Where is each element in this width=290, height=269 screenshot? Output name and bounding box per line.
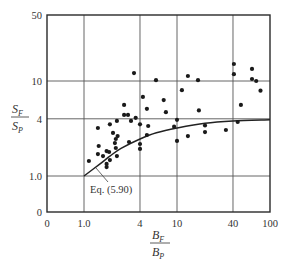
svg-text:SF: SF — [12, 102, 23, 118]
y-tick-label: 10 — [32, 76, 43, 87]
data-point — [197, 108, 201, 112]
data-point — [101, 154, 105, 158]
svg-text:BF: BF — [152, 228, 164, 244]
data-point — [127, 140, 131, 144]
data-point — [239, 103, 243, 107]
x-tick-label: 0 — [44, 218, 49, 229]
svg-text:BP: BP — [152, 245, 164, 261]
data-point — [108, 122, 112, 126]
annotation-label: Eq. (5.90) — [90, 184, 133, 196]
data-point — [87, 159, 91, 163]
data-point — [175, 118, 179, 122]
y-axis-label: SF SP — [11, 102, 29, 135]
x-axis-ticks: 01.041040100 — [44, 218, 278, 229]
data-point — [172, 125, 176, 129]
data-point — [203, 130, 207, 134]
data-point — [107, 150, 111, 154]
plot-frame — [47, 15, 270, 212]
svg-text:SP: SP — [12, 119, 23, 135]
data-point — [115, 154, 119, 158]
data-point — [224, 128, 228, 132]
x-axis-label: BF BP — [150, 228, 170, 261]
data-point — [96, 126, 100, 130]
data-point — [122, 103, 126, 107]
data-point — [96, 152, 100, 156]
x-tick-label: 40 — [228, 218, 239, 229]
data-point — [126, 113, 130, 117]
data-point — [111, 131, 115, 135]
y-tick-label: 4 — [37, 114, 43, 125]
data-point — [145, 107, 149, 111]
x-tick-label: 100 — [262, 218, 278, 229]
x-tick-label: 4 — [137, 218, 143, 229]
y-axis-ticks: 01.041050 — [29, 10, 43, 218]
grid-lines — [47, 15, 270, 212]
y-tick-label: 0 — [37, 207, 42, 218]
annotation-leader — [96, 168, 108, 182]
data-point — [138, 147, 142, 151]
x-tick-label: 10 — [172, 218, 183, 229]
data-point — [105, 165, 109, 169]
data-point — [250, 77, 254, 81]
data-point — [122, 113, 126, 117]
data-point — [113, 141, 117, 145]
y-tick-label: 50 — [32, 10, 43, 21]
data-point — [146, 124, 150, 128]
data-point — [116, 134, 120, 138]
data-point — [186, 134, 190, 138]
data-point — [232, 72, 236, 76]
data-point — [97, 144, 101, 148]
x-tick-label: 1.0 — [77, 218, 90, 229]
data-point — [145, 133, 149, 137]
data-point — [138, 122, 142, 126]
data-point — [203, 123, 207, 127]
data-point — [108, 158, 112, 162]
data-point — [254, 79, 258, 83]
chart: 01.041040100 01.041050 Eq. (5.90) SF SP … — [0, 0, 290, 269]
data-point — [196, 78, 200, 82]
data-point — [129, 119, 133, 123]
data-point — [154, 78, 158, 82]
y-tick-label: 1.0 — [29, 171, 42, 182]
data-point — [115, 119, 119, 123]
data-point — [186, 74, 190, 78]
data-point — [250, 67, 254, 71]
data-point — [162, 98, 166, 102]
data-point — [175, 139, 179, 143]
data-point — [236, 120, 240, 124]
data-point — [134, 116, 138, 120]
data-point — [114, 146, 118, 150]
data-point — [132, 71, 136, 75]
data-point — [180, 88, 184, 92]
data-point — [232, 62, 236, 66]
data-point — [138, 142, 142, 146]
data-point — [141, 95, 145, 99]
data-point — [164, 110, 168, 114]
data-point — [258, 89, 262, 93]
